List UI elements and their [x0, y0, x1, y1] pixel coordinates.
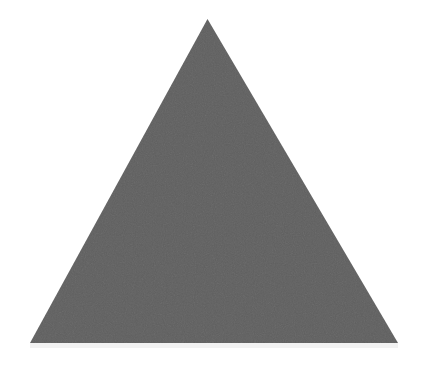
image-canvas: solid gray triangle	[0, 0, 433, 367]
triangle-figure	[0, 0, 433, 367]
base-shadow	[30, 343, 398, 348]
